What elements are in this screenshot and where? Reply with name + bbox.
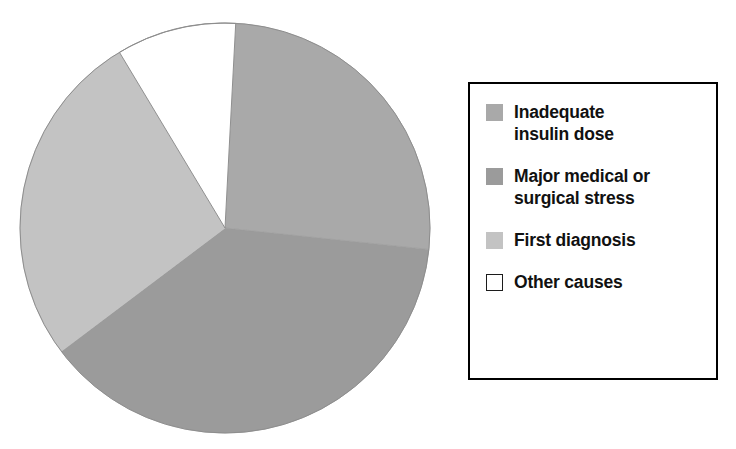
legend-item-major-medical-or-surgical-stress[interactable]: Major medical or surgical stress — [486, 165, 708, 209]
legend-item-list: Inadequate insulin dose Major medical or… — [486, 101, 708, 293]
legend-label-inadequate-insulin-dose: Inadequate insulin dose — [514, 101, 614, 145]
pie-slice-inadequate-insulin-dose[interactable] — [225, 23, 430, 249]
legend-item-inadequate-insulin-dose[interactable]: Inadequate insulin dose — [486, 101, 708, 145]
pie-chart-svg — [0, 0, 460, 449]
legend-item-other-causes[interactable]: Other causes — [486, 271, 708, 293]
legend-label-major-medical-or-surgical-stress: Major medical or surgical stress — [514, 165, 650, 209]
pie-chart — [0, 0, 460, 449]
legend-swatch-inadequate-insulin-dose — [486, 104, 503, 121]
legend-item-first-diagnosis[interactable]: First diagnosis — [486, 229, 708, 251]
legend-label-first-diagnosis: First diagnosis — [514, 229, 635, 251]
chart-canvas: Inadequate insulin dose Major medical or… — [0, 0, 736, 449]
legend-label-other-causes: Other causes — [514, 271, 623, 293]
chart-legend: Inadequate insulin dose Major medical or… — [468, 82, 718, 380]
pie-slice-group — [20, 23, 430, 433]
legend-swatch-other-causes — [486, 274, 503, 291]
legend-swatch-major-medical-or-surgical-stress — [486, 168, 503, 185]
legend-swatch-first-diagnosis — [486, 232, 503, 249]
